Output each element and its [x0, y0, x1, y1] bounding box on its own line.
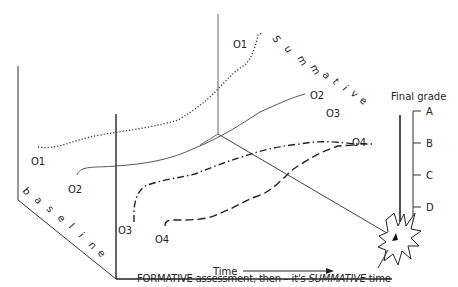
series-o3-line — [134, 142, 375, 222]
label-o4-start: O4 — [155, 234, 169, 245]
label-o3-end: O3 — [326, 108, 340, 119]
svg-text:S: S — [270, 34, 283, 45]
svg-text:e: e — [55, 212, 67, 224]
grade-b: B — [426, 138, 433, 149]
svg-text:n: n — [86, 239, 99, 251]
svg-text:v: v — [349, 88, 361, 100]
svg-text:i: i — [340, 83, 350, 92]
label-o4-end: O4 — [352, 137, 366, 148]
svg-text:m: m — [308, 63, 322, 77]
svg-text:a: a — [32, 194, 44, 206]
label-o1-end: O1 — [233, 39, 247, 50]
baseline-diagonal-axis — [18, 200, 116, 279]
series-o2-line — [77, 94, 305, 175]
caption-emphasis: SUMMATIVE — [308, 273, 365, 284]
summative-diagonal-axis — [218, 134, 392, 236]
svg-text:t: t — [330, 76, 341, 86]
svg-text:m: m — [295, 54, 309, 68]
svg-text:e: e — [358, 94, 369, 107]
formative-summative-diagram: O1 O2 O3 O4 O1 O2 O3 O4 S u m m a t i v … — [0, 0, 458, 287]
svg-text:i: i — [76, 230, 86, 239]
final-grade-title: Final grade — [391, 91, 446, 102]
grade-c: C — [426, 170, 433, 181]
svg-text:l: l — [66, 221, 76, 230]
svg-text:e: e — [95, 247, 107, 259]
series-o1-line — [38, 33, 262, 148]
label-o1-start: O1 — [31, 156, 45, 167]
caption-block: FORMATIVE assessment, then – it's SUMMAT… — [137, 273, 391, 284]
series-o4-line — [165, 145, 355, 226]
svg-text:b: b — [20, 185, 33, 197]
grade-a: A — [426, 106, 433, 117]
baseline-axis-label: b a s e l i n e — [20, 185, 107, 259]
label-o2-end: O2 — [310, 90, 324, 101]
svg-text:u: u — [282, 44, 295, 55]
svg-text:s: s — [44, 203, 56, 214]
label-o3-start: O3 — [118, 225, 132, 236]
label-o2-start: O2 — [68, 184, 82, 195]
back-base-line — [200, 134, 218, 145]
caption-suffix: time — [366, 273, 391, 284]
caption-prefix: FORMATIVE assessment, then – it's — [137, 273, 308, 284]
grade-d: D — [426, 202, 434, 213]
